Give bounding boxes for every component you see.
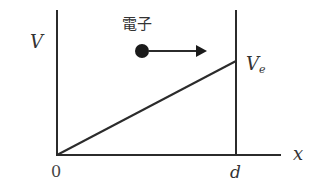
ve-label-sub: e — [259, 63, 266, 76]
origin-label: 0 — [51, 162, 61, 181]
x-axis-label: x — [293, 143, 303, 164]
y-axis-label: V — [30, 31, 45, 52]
electron-label: 電子 — [122, 15, 152, 33]
potential-line — [57, 61, 236, 155]
ve-label: Ve — [246, 53, 266, 76]
potential-diagram: V 電子 Ve 0 d x — [0, 0, 326, 189]
arrow-head-icon — [196, 45, 207, 57]
plate-distance-label: d — [230, 162, 241, 182]
electron-dot-icon — [135, 44, 149, 58]
